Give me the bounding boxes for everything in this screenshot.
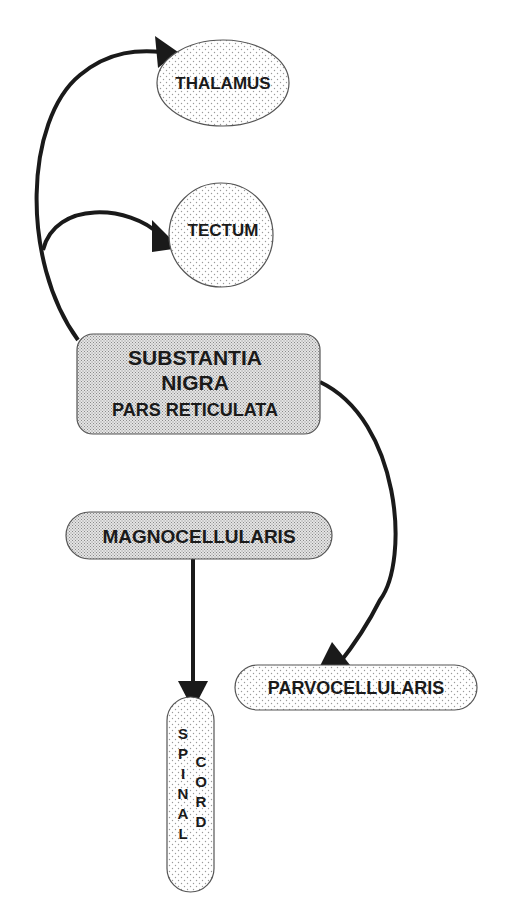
svg-text:D: D — [196, 813, 207, 830]
svg-text:C: C — [196, 753, 207, 770]
node-label: TECTUM — [188, 221, 259, 240]
svg-text:I: I — [181, 765, 185, 782]
node-magnocellularis: MAGNOCELLULARIS — [66, 512, 332, 559]
diagram-canvas: THALAMUS TECTUM SUBSTANTIA NIGRA PARS RE… — [0, 0, 507, 913]
svg-text:L: L — [178, 825, 187, 842]
svg-text:S: S — [178, 725, 188, 742]
svg-text:A: A — [178, 805, 189, 822]
svg-text:P: P — [178, 745, 188, 762]
node-label-line2: NIGRA — [161, 371, 229, 394]
node-label: MAGNOCELLULARIS — [102, 526, 295, 547]
edge-substantia-to-tectum — [43, 212, 180, 252]
node-thalamus: THALAMUS — [157, 40, 289, 126]
svg-text:N: N — [178, 785, 189, 802]
node-spinal-cord: S P I N A L C O R D — [167, 697, 214, 892]
node-substantia-nigra: SUBSTANTIA NIGRA PARS RETICULATA — [77, 334, 320, 434]
node-label-line3: PARS RETICULATA — [112, 400, 278, 420]
node-label-line1: SUBSTANTIA — [128, 346, 262, 369]
edge-magnocellularis-to-spinal-cord — [178, 557, 208, 710]
node-label: THALAMUS — [175, 74, 270, 93]
svg-text:O: O — [195, 773, 207, 790]
node-parvocellularis: PARVOCELLULARIS — [235, 665, 477, 710]
node-label: PARVOCELLULARIS — [268, 678, 444, 698]
svg-text:R: R — [196, 793, 207, 810]
node-tectum: TECTUM — [169, 183, 273, 287]
